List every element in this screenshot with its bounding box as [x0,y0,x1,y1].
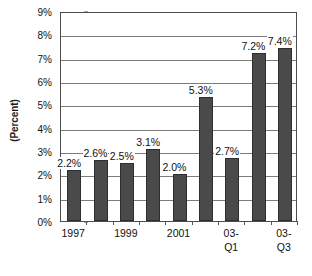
bar [67,170,81,221]
y-axis-tick-label: 7% [38,53,52,64]
x-axis-tick-mark [271,221,272,225]
plot-area [60,12,297,222]
bar [278,48,292,221]
x-axis-tick-mark [113,221,114,225]
bar [173,174,187,221]
y-axis-tick-label: 9% [38,7,52,18]
x-axis-tick-labels: 19971999200103- Q103- Q3 [60,226,297,272]
x-axis-tick-mark [165,221,166,225]
bar [146,149,160,221]
y-axis-title-text: (Percent) [9,99,20,141]
x-axis-tick-mark [218,221,219,225]
y-axis-tick-label: 1% [38,193,52,204]
y-axis-tick-label: 0% [38,217,52,228]
y-axis-tick-label: 4% [38,123,52,134]
x-axis-tick-mark [297,221,298,225]
x-axis-tick-mark [139,221,140,225]
x-axis-tick-label: 03- Q3 [276,226,291,254]
bar [120,163,134,221]
x-axis-tick-label: 1997 [61,226,84,240]
bar [199,97,213,221]
bar [94,160,108,221]
y-axis-tick-label: 8% [38,30,52,41]
x-axis-tick-label: 03- Q1 [224,226,239,254]
bar [225,158,239,221]
x-axis-tick-mark [86,221,87,225]
x-axis-tick-mark [192,221,193,225]
x-axis-tick-label: 1999 [114,226,137,240]
y-axis-tick-label: 6% [38,77,52,88]
y-axis-title: (Percent) [0,0,28,240]
y-axis-tick-label: 3% [38,147,52,158]
y-axis-tick-label: 2% [38,170,52,181]
x-axis-tick-label: 2001 [167,226,190,240]
bar-chart: (Percent) 0%1%2%3%4%5%6%7%8%9% 2.2%2.6%2… [0,0,312,276]
x-axis-tick-mark [244,221,245,225]
bar [252,53,266,221]
bars-layer [61,13,296,221]
y-axis-tick-label: 5% [38,100,52,111]
y-axis-tick-labels: 0%1%2%3%4%5%6%7%8%9% [28,12,56,222]
